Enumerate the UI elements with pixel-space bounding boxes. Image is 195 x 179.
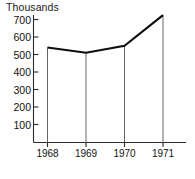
y-tick-label-700: 700 bbox=[13, 14, 31, 26]
x-tick-label-1968: 1968 bbox=[36, 148, 59, 159]
y-tick-label-300: 300 bbox=[13, 84, 31, 96]
x-tick-label-1969: 1969 bbox=[75, 148, 98, 159]
y-axis-unit-label: Thousands bbox=[6, 1, 59, 13]
y-tick-label-100: 100 bbox=[13, 119, 31, 131]
y-tick-label-500: 500 bbox=[13, 49, 31, 61]
y-axis-tick-labels: 700 600 500 400 300 200 100 bbox=[13, 14, 31, 131]
chart-container: Thousands 700 600 500 400 300 200 100 bbox=[0, 0, 195, 179]
x-tick-label-1970: 1970 bbox=[113, 148, 136, 159]
x-tick-label-1971: 1971 bbox=[152, 148, 175, 159]
y-tick-label-400: 400 bbox=[13, 66, 31, 78]
y-tick-label-200: 200 bbox=[13, 101, 31, 113]
y-tick-label-600: 600 bbox=[13, 31, 31, 43]
line-chart: Thousands 700 600 500 400 300 200 100 bbox=[0, 0, 195, 179]
